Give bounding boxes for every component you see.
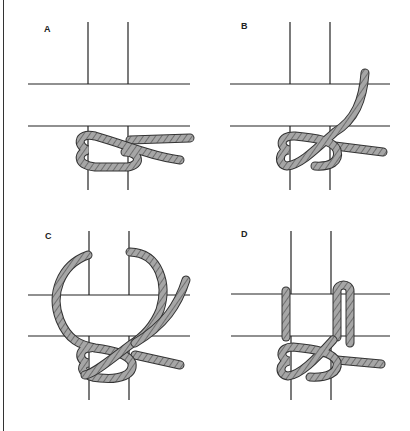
panel-b: B <box>205 0 410 215</box>
knot-step-d-illustration <box>205 215 410 431</box>
panel-c: C <box>0 215 205 430</box>
knot-step-c-illustration <box>0 215 205 431</box>
panel-d: D <box>205 215 410 430</box>
knot-step-a-illustration <box>0 0 205 215</box>
knot-step-b-illustration <box>205 0 410 215</box>
panel-a: A <box>0 0 205 215</box>
